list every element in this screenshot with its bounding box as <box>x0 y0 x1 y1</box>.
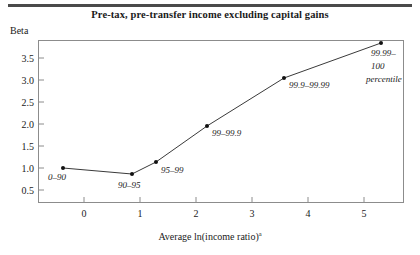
x-axis-label: Average ln(income ratio)a <box>0 230 420 242</box>
data-point-0-90 <box>61 166 65 170</box>
x-tick-marks <box>84 197 364 203</box>
annotation-99-99.9: 99–99.9 <box>212 128 241 139</box>
figure-container: Pre-tax, pre-transfer income excluding c… <box>0 0 420 255</box>
annotation-0-90: 0–90 <box>48 172 66 183</box>
data-point-99.9-99.99 <box>282 76 286 80</box>
y-tick-marks <box>38 58 44 190</box>
data-point-99.99-100 <box>379 41 383 45</box>
data-point-95-99 <box>154 160 158 164</box>
plot-svg <box>0 0 420 255</box>
annotation-99.99-100-line2: 100 <box>371 61 385 72</box>
data-point-90-95 <box>130 172 134 176</box>
annotation-95-99: 95–99 <box>161 165 184 176</box>
series-line <box>63 43 381 174</box>
x-axis-label-main: Average ln(income ratio) <box>158 231 258 242</box>
annotation-99.9-99.99: 99.9–99.99 <box>289 80 330 91</box>
series-markers <box>61 41 383 176</box>
data-point-99-99.9 <box>205 124 209 128</box>
annotation-99.99-100-line3: percentile <box>366 74 402 85</box>
x-axis-label-footnote-marker: a <box>259 230 262 237</box>
annotation-99.99-100-line1: 99.99– <box>371 48 396 59</box>
annotation-90-95: 90–95 <box>118 180 141 191</box>
